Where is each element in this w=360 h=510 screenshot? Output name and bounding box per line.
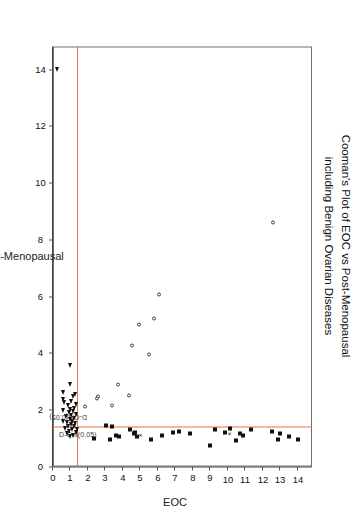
- chart-subtitle: including Benign Ovarian Diseases: [320, 0, 337, 491]
- y-axis-tick-label: 7: [173, 471, 178, 482]
- data-point-eoc: [171, 430, 175, 434]
- data-point-eoc: [208, 443, 212, 447]
- x-axis-title-text: Post-Menopausal: [0, 250, 64, 262]
- data-point-eoc: [132, 431, 136, 435]
- y-axis-tick-label: 2: [85, 471, 90, 482]
- y-axis-tick: [245, 466, 246, 470]
- data-point-benign: [83, 404, 87, 408]
- chart-title: Cooman's Plot of EOC vs Post-Menopausal: [337, 0, 354, 491]
- data-point-postmenopausal: [62, 400, 66, 405]
- data-point-eoc: [108, 437, 112, 441]
- data-point-postmenopausal: [62, 390, 66, 395]
- data-point-eoc: [296, 437, 300, 441]
- plot-area: [53, 46, 312, 466]
- data-point-postmenopausal: [55, 66, 59, 71]
- y-axis-tick-label: 3: [103, 471, 108, 482]
- x-axis-tick: [49, 69, 53, 70]
- data-point-eoc: [279, 431, 283, 435]
- data-point-postmenopausal: [68, 381, 72, 386]
- data-point-benign: [111, 403, 115, 407]
- data-point-eoc: [188, 431, 192, 435]
- x-axis-tick: [49, 409, 53, 410]
- y-axis-tick-label: 14: [293, 474, 304, 485]
- data-point-eoc: [104, 423, 108, 427]
- y-axis-tick-label: 0: [50, 471, 55, 482]
- data-point-eoc: [234, 438, 238, 442]
- data-point-eoc: [110, 424, 114, 428]
- x-axis-tick-label: 8: [38, 233, 43, 244]
- data-point-eoc: [92, 436, 96, 440]
- y-axis-tick: [157, 466, 158, 470]
- data-point-eoc: [276, 437, 280, 441]
- critical-line-postmenopausal: [53, 426, 312, 427]
- y-axis-tick: [262, 466, 263, 470]
- x-axis-tick: [49, 296, 53, 297]
- y-axis-tick-label: 11: [241, 473, 251, 484]
- x-axis-tick-label: 0: [38, 461, 43, 472]
- data-point-postmenopausal: [61, 407, 65, 412]
- data-point-eoc: [228, 426, 232, 430]
- data-point-benign: [95, 396, 99, 400]
- axis-zero-line-postmenopausal: [53, 466, 312, 467]
- data-point-outlier: [137, 432, 143, 438]
- y-axis-tick: [70, 466, 71, 470]
- x-axis-tick-label: 10: [35, 177, 46, 188]
- y-axis-tick-label: 4: [120, 471, 125, 482]
- data-point-eoc: [177, 429, 181, 433]
- data-point-benign: [147, 352, 151, 356]
- data-point-eoc: [160, 433, 164, 437]
- data-point-benign: [152, 316, 156, 320]
- y-axis-tick: [297, 466, 298, 470]
- y-axis-tick-label: 6: [155, 471, 160, 482]
- data-point-eoc: [287, 434, 291, 438]
- data-point-benign: [127, 393, 131, 397]
- y-axis-tick: [175, 466, 176, 470]
- y-axis-tick: [52, 466, 53, 470]
- data-point-benign: [130, 343, 134, 347]
- x-axis-tick-label: 12: [35, 120, 46, 131]
- data-point-postmenopausal: [68, 363, 72, 368]
- data-point-benign: [116, 382, 120, 386]
- data-point-eoc: [149, 437, 153, 441]
- y-axis-tick-label: 5: [138, 471, 143, 482]
- y-axis-tick-label: 10: [223, 474, 234, 485]
- data-point-postmenopausal: [75, 427, 79, 432]
- y-axis-title: EOC: [164, 490, 176, 510]
- data-point-eoc: [270, 429, 274, 433]
- data-point-eoc: [114, 433, 118, 437]
- x-axis-tick-label: 2: [38, 404, 43, 415]
- y-axis-tick: [192, 466, 193, 470]
- x-axis-tick-label: 4: [38, 347, 43, 358]
- x-axis-tick-label: 6: [38, 290, 43, 301]
- x-axis-title: Post-Menopausal: [15, 46, 27, 466]
- y-axis-tick-label: 12: [258, 474, 269, 485]
- data-point-eoc: [128, 427, 132, 431]
- y-axis-tick: [227, 466, 228, 470]
- y-axis-tick-label: 1: [68, 471, 73, 482]
- y-axis-tick: [140, 466, 141, 470]
- data-point-benign: [137, 322, 141, 326]
- x-axis-tick: [49, 239, 53, 240]
- y-axis-tick: [122, 466, 123, 470]
- y-axis-tick-label: 13: [275, 474, 286, 485]
- y-axis-tick: [105, 466, 106, 470]
- data-point-outlier: [226, 430, 232, 436]
- data-point-benign: [272, 220, 276, 224]
- data-point-eoc: [249, 427, 253, 431]
- x-axis-tick: [49, 182, 53, 183]
- chart-title-block: Cooman's Plot of EOC vs Post-Menopausal …: [320, 0, 354, 491]
- y-axis-tick: [280, 466, 281, 470]
- data-point-eoc: [238, 431, 242, 435]
- data-point-postmenopausal: [62, 418, 66, 423]
- x-axis-tick: [49, 352, 53, 353]
- y-axis-tick-label: 9: [208, 471, 213, 482]
- y-axis-tick-label: 8: [190, 471, 195, 482]
- x-axis-tick-label: 14: [35, 63, 46, 74]
- data-point-postmenopausal: [68, 434, 72, 439]
- x-axis-tick: [49, 125, 53, 126]
- y-axis-tick: [210, 466, 211, 470]
- y-axis-tick: [87, 466, 88, 470]
- data-point-benign: [157, 292, 161, 296]
